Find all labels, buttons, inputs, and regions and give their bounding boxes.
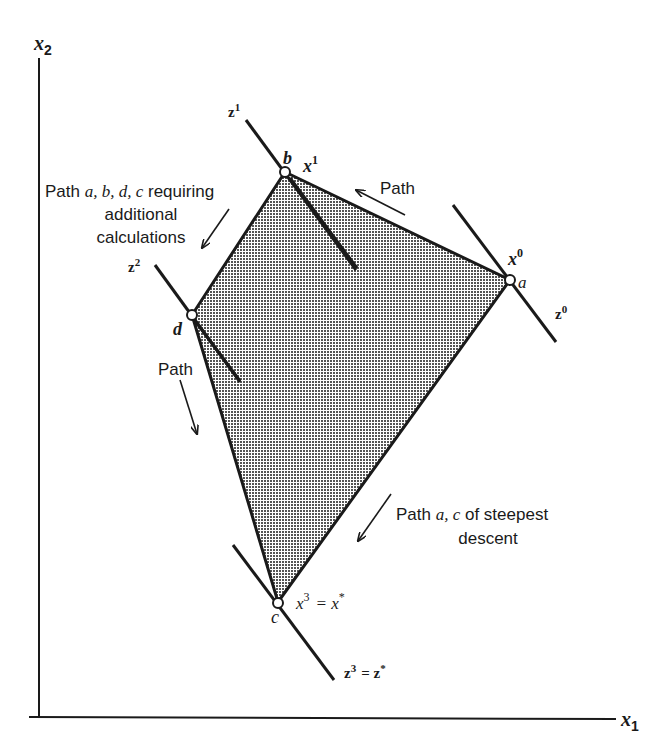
annotation-path-abdc-line2: additional bbox=[105, 205, 178, 224]
arrow-path-d-to-c bbox=[180, 380, 197, 434]
vertex-a-iterate-label: x0 bbox=[507, 246, 523, 269]
vertex-b bbox=[280, 167, 290, 177]
annotation-path-ac-line1: Path a, c of steepest bbox=[396, 505, 548, 524]
x-axis-label: x1 bbox=[620, 708, 639, 734]
annotation-path-abdc-line3: calculations bbox=[97, 228, 186, 247]
vertex-a bbox=[505, 275, 515, 285]
contour-z0-label: z0 bbox=[555, 303, 568, 322]
annotation-path-ac: Path a, c of steepest descent bbox=[396, 505, 548, 548]
annotation-path-left: Path bbox=[158, 360, 193, 379]
vertex-b-iterate-label: x1 bbox=[302, 153, 318, 176]
x-axis bbox=[29, 717, 616, 719]
arrow-path-b-to-d bbox=[202, 209, 229, 248]
annotation-path-ac-line2: descent bbox=[458, 529, 518, 548]
arrow-path-a-to-c bbox=[358, 494, 391, 541]
vertex-b-label: b bbox=[283, 148, 292, 168]
diagram-canvas: x2 x1 b x1 x0 a d c x3= x* z1 z0 bbox=[0, 0, 670, 753]
annotation-path-abdc: Path a, b, d, c requiring additional cal… bbox=[45, 182, 214, 247]
y-axis-label: x2 bbox=[33, 32, 52, 58]
annotation-path-top: Path bbox=[380, 179, 415, 198]
vertex-c-iterate-label: x3= x* bbox=[295, 590, 345, 613]
contour-z2-label: z2 bbox=[128, 256, 141, 275]
contour-z3-label: z3= z* bbox=[344, 662, 386, 681]
contour-z1-label: z1 bbox=[228, 101, 240, 120]
vertex-c-label: c bbox=[271, 607, 279, 627]
vertex-d bbox=[187, 310, 197, 320]
annotation-path-abdc-line1: Path a, b, d, c requiring bbox=[45, 182, 214, 201]
vertex-d-label: d bbox=[173, 319, 183, 339]
vertex-a-label: a bbox=[518, 273, 527, 292]
